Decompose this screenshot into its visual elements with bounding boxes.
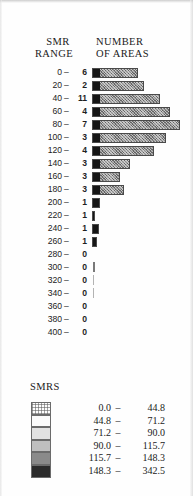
row-range-label: 380 — [14, 313, 62, 326]
bar-dark-cap — [93, 147, 100, 155]
row-range-label: 240 — [14, 222, 62, 235]
bar-dark-cap — [93, 95, 100, 103]
bar-track — [92, 172, 120, 182]
row-count-value: 3 — [66, 170, 87, 183]
row-count-value: 2 — [66, 79, 87, 92]
row-range-label: 180 — [14, 183, 62, 196]
histogram-row: 280–0 — [0, 248, 193, 261]
legend-swatch — [31, 452, 51, 465]
row-range-label: 20 — [14, 79, 62, 92]
histogram-bar — [92, 224, 99, 234]
legend-range-high: 90.0 — [123, 427, 165, 440]
row-range-label: 300 — [14, 261, 62, 274]
legend-range-dash: – — [113, 440, 123, 453]
legend-swatch — [31, 415, 51, 428]
legend-range-dash: – — [113, 402, 123, 415]
row-range-label: 160 — [14, 170, 62, 183]
bar-track — [92, 120, 180, 130]
histogram-row: 40–11 — [0, 92, 193, 105]
row-range-label: 320 — [14, 274, 62, 287]
histogram-row: 140–3 — [0, 157, 193, 170]
row-range-label: 200 — [14, 196, 62, 209]
row-range-label: 360 — [14, 300, 62, 313]
row-range-label: 280 — [14, 248, 62, 261]
bar-dark-cap — [93, 186, 100, 194]
header-number-line1: NUMBER — [96, 36, 178, 47]
stray-ink-mark — [93, 275, 94, 285]
row-range-label: 40 — [14, 92, 62, 105]
histogram-row: 240–1 — [0, 222, 193, 235]
row-range-label: 0 — [14, 66, 62, 79]
row-count-value: 4 — [66, 144, 87, 157]
row-count-value: 6 — [66, 66, 87, 79]
stray-ink-mark — [93, 288, 94, 298]
header-smr-line2: RANGE — [22, 48, 86, 59]
legend-range-low: 115.7 — [59, 452, 111, 465]
histogram-bar — [92, 94, 160, 104]
histogram-bar — [92, 185, 124, 195]
bar-track — [92, 146, 154, 156]
row-count-value: 3 — [66, 157, 87, 170]
row-range-label: 100 — [14, 131, 62, 144]
histogram-row: 380–0 — [0, 313, 193, 326]
legend-row: 148.3–342.5 — [31, 465, 181, 478]
row-range-label: 120 — [14, 144, 62, 157]
histogram-row: 360–0 — [0, 300, 193, 313]
row-count-value: 3 — [66, 183, 87, 196]
row-range-label: 80 — [14, 118, 62, 131]
legend-range-low: 71.2 — [59, 427, 111, 440]
row-range-label: 400 — [14, 326, 62, 339]
bar-track — [92, 224, 99, 234]
legend-row: 0.0–44.8 — [31, 402, 181, 415]
legend-range-high: 71.2 — [123, 415, 165, 428]
bar-dark-cap — [93, 69, 100, 77]
bar-track — [92, 94, 160, 104]
row-range-label: 60 — [14, 105, 62, 118]
bar-dark-cap — [93, 121, 100, 129]
row-range-label: 140 — [14, 157, 62, 170]
bar-track — [92, 185, 124, 195]
legend-range-dash: – — [113, 427, 123, 440]
legend-list: 0.0–44.844.8–71.271.2–90.090.0–115.7115.… — [31, 402, 181, 478]
header-number-line2: OF AREAS — [96, 48, 178, 59]
row-count-value: 11 — [66, 92, 87, 105]
histogram-bar — [92, 146, 154, 156]
legend-range-high: 342.5 — [123, 465, 165, 478]
histogram-bar — [92, 172, 120, 182]
histogram-row: 100–3 — [0, 131, 193, 144]
histogram-row: 80–7 — [0, 118, 193, 131]
histogram-bar — [92, 198, 100, 208]
row-count-value: 3 — [66, 131, 87, 144]
legend-range-low: 44.8 — [59, 415, 111, 428]
bar-track — [92, 159, 130, 169]
histogram-row: 340–0 — [0, 287, 193, 300]
row-count-value: 1 — [66, 209, 87, 222]
histogram-row: 220–1 — [0, 209, 193, 222]
legend-row: 115.7–148.3 — [31, 452, 181, 465]
bar-dark-cap — [93, 212, 94, 220]
bar-track — [92, 133, 166, 143]
row-count-value: 1 — [66, 196, 87, 209]
legend-row: 44.8–71.2 — [31, 415, 181, 428]
histogram-bar — [92, 120, 180, 130]
histogram-row: 200–1 — [0, 196, 193, 209]
histogram-row: 260–1 — [0, 235, 193, 248]
bar-track — [92, 107, 170, 117]
legend-range-low: 0.0 — [59, 402, 111, 415]
row-count-value: 1 — [66, 222, 87, 235]
stray-ink-mark — [93, 262, 95, 272]
histogram-row: 180–3 — [0, 183, 193, 196]
row-count-value: 0 — [66, 326, 87, 339]
row-range-label: 220 — [14, 209, 62, 222]
row-count-value: 0 — [66, 300, 87, 313]
histogram-bar — [92, 133, 166, 143]
legend-swatch — [31, 465, 51, 478]
row-count-value: 0 — [66, 287, 87, 300]
row-count-value: 0 — [66, 261, 87, 274]
figure-sheet: SMR RANGE NUMBER OF AREAS 0–620–240–1160… — [0, 0, 193, 496]
histogram-bar — [92, 159, 130, 169]
histogram-row: 0–6 — [0, 66, 193, 79]
bar-track — [92, 68, 138, 78]
legend-range-low: 90.0 — [59, 440, 111, 453]
row-range-label: 340 — [14, 287, 62, 300]
